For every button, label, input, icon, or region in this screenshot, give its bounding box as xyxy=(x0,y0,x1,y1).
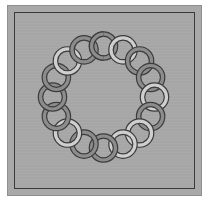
ring-wreath xyxy=(0,0,210,209)
